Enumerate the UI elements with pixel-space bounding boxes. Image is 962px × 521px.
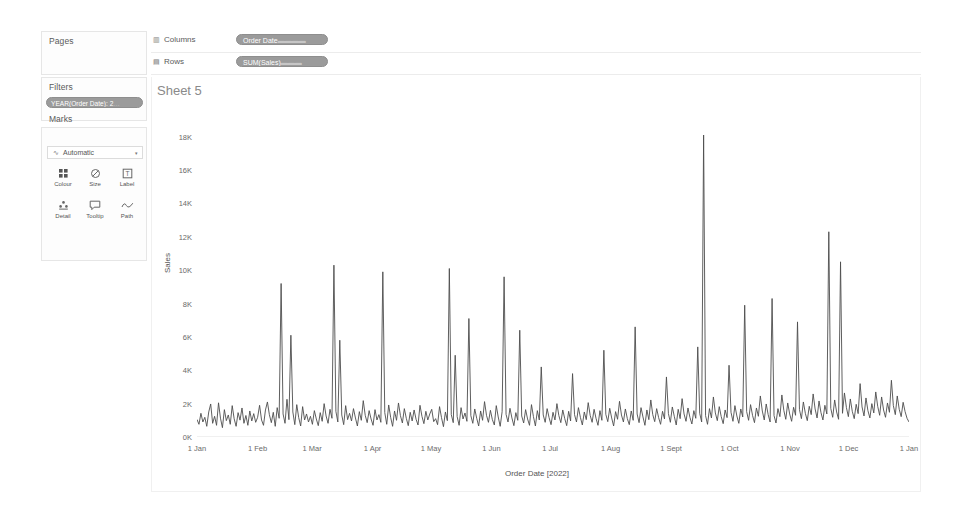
marks-path-button[interactable]: Path (111, 196, 143, 228)
tableau-worksheet: Pages Filters YEAR(Order Date): 2… Marks… (0, 0, 962, 521)
sales-line-path (197, 135, 909, 428)
y-axis-tick: 14K (179, 199, 192, 208)
marks-size-label: Size (89, 181, 101, 187)
marks-card[interactable]: Marks ∿ Automatic ▾ Colour (41, 127, 147, 261)
marks-label-label: Label (120, 181, 135, 187)
path-icon (121, 199, 134, 212)
pill-sum-sales-trail: ▬▬▬ (281, 59, 302, 66)
x-axis-tick: 1 Feb (248, 444, 267, 453)
x-axis-tick: 1 Jan (900, 444, 918, 453)
x-axis-tick: 1 Nov (780, 444, 800, 453)
y-axis-tick: 4K (183, 366, 192, 375)
x-axis-tick: 1 Sept (660, 444, 682, 453)
sales-line-series (197, 120, 909, 437)
pages-title: Pages (49, 36, 74, 46)
x-axis-tick: 1 Apr (364, 444, 382, 453)
pill-sum-sales-label: SUM(Sales) (243, 59, 281, 66)
marks-label-button[interactable]: T Label (111, 164, 143, 196)
mark-button-row: Colour Size T Label (47, 164, 143, 196)
y-axis-tick: 6K (183, 332, 192, 341)
mark-button-row: Detail Tooltip Path (47, 196, 143, 228)
sheet-title: Sheet 5 (157, 83, 202, 98)
y-axis-tick: 12K (179, 232, 192, 241)
mark-type-value: Automatic (63, 147, 94, 159)
pill-sum-sales[interactable]: SUM(Sales)▬▬▬ (236, 56, 328, 67)
filters-title: Filters (49, 82, 73, 92)
rows-shelf[interactable]: ▤ Rows SUM(Sales)▬▬▬ (151, 55, 921, 75)
marks-detail-button[interactable]: Detail (47, 196, 79, 228)
marks-tooltip-button[interactable]: Tooltip (79, 196, 111, 228)
x-axis-tick: 1 Mar (302, 444, 321, 453)
filter-pill-year-order-date[interactable]: YEAR(Order Date): 2… (46, 97, 143, 108)
y-axis-tick: 8K (183, 299, 192, 308)
colour-icon (58, 167, 69, 180)
marks-colour-label: Colour (54, 181, 72, 187)
y-axis-tick: 16K (179, 166, 192, 175)
y-axis-tick: 18K (179, 132, 192, 141)
filter-pill-label: YEAR(Order Date): 2 (51, 100, 113, 107)
mark-type-glyph-icon: ∿ (53, 147, 59, 159)
y-axis-tick: 0K (183, 433, 192, 442)
x-axis-tick: 1 Oct (721, 444, 739, 453)
size-icon (90, 167, 101, 180)
x-axis-tick: 1 Jul (542, 444, 558, 453)
tooltip-icon (89, 199, 101, 212)
x-axis-tick: 1 May (421, 444, 441, 453)
rows-shelf-icon: ▤ (153, 58, 160, 66)
x-axis-tick: 1 Aug (601, 444, 620, 453)
svg-text:T: T (125, 170, 129, 177)
x-axis-tick: 1 Dec (839, 444, 859, 453)
y-axis-title: Sales (163, 253, 172, 273)
pill-order-date-trail: ▬▬▬▬ (278, 37, 306, 44)
viz-panel[interactable]: Sheet 5 Sales Order Date [2022] 0K2K4K6K… (151, 77, 921, 492)
left-rail: Pages Filters YEAR(Order Date): 2… Marks… (41, 31, 147, 261)
marks-path-label: Path (121, 213, 133, 219)
y-axis-tick: 10K (179, 266, 192, 275)
marks-detail-label: Detail (55, 213, 70, 219)
marks-size-button[interactable]: Size (79, 164, 111, 196)
pages-card[interactable]: Pages (41, 31, 147, 75)
columns-shelf-label: Columns (164, 35, 196, 44)
x-axis-tick: 1 Jan (188, 444, 206, 453)
pill-order-date[interactable]: Order Date▬▬▬▬ (236, 34, 328, 45)
detail-icon (58, 199, 69, 212)
marks-colour-button[interactable]: Colour (47, 164, 79, 196)
chart-plot-area[interactable]: 0K2K4K6K8K10K12K14K16K18K1 Jan1 Feb1 Mar… (197, 120, 909, 437)
columns-shelf-icon: ▥ (153, 36, 160, 44)
rows-shelf-label: Rows (164, 57, 184, 66)
pill-order-date-label: Order Date (243, 37, 278, 44)
chevron-down-icon: ▾ (135, 147, 138, 159)
filter-pill-trail: … (113, 100, 120, 107)
label-icon: T (122, 167, 133, 180)
mark-type-dropdown[interactable]: ∿ Automatic ▾ (47, 146, 143, 159)
columns-shelf[interactable]: ▥ Columns Order Date▬▬▬▬ (151, 33, 921, 53)
marks-tooltip-label: Tooltip (86, 213, 103, 219)
marks-title: Marks (49, 114, 72, 124)
y-axis-tick: 2K (183, 399, 192, 408)
x-axis-tick: 1 Jun (482, 444, 500, 453)
mark-buttons: Colour Size T Label (47, 164, 143, 228)
x-axis-title: Order Date [2022] (152, 469, 922, 478)
